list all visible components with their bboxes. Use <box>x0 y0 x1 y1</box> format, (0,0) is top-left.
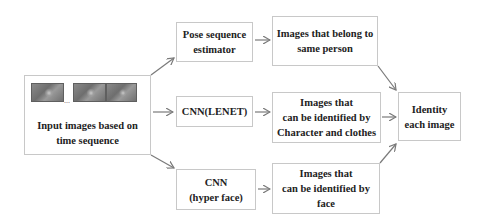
identity-line-1: Identity <box>412 102 448 117</box>
cnn-lenet-box: CNN(LENET) <box>176 96 253 127</box>
flow-diagram: Input images based on time sequence ... … <box>0 0 484 222</box>
by-face-line-2: can be identified by <box>282 181 370 196</box>
pose-label-line-2: estimator <box>193 42 236 57</box>
char-clothes-line-1: Images that <box>300 95 353 110</box>
frame-ellipsis: ... <box>64 97 70 105</box>
frame-thumbnail-1 <box>31 83 64 102</box>
arrow-input-to-pose <box>151 58 174 75</box>
same-person-box: Images that belong to same person <box>272 16 378 66</box>
identity-line-2: each image <box>405 117 455 132</box>
char-clothes-line-2: can be identified by <box>283 110 371 125</box>
identity-box: Identity each image <box>398 92 461 141</box>
cnn-hyperface-box: CNN (hyper face) <box>176 169 256 210</box>
char-clothes-line-3: Character and clothes <box>277 125 376 140</box>
character-clothes-box: Images that can be identified by Charact… <box>272 92 381 143</box>
pose-label-line-1: Pose sequence <box>183 27 246 42</box>
same-person-line-1: Images that belong to <box>277 26 374 41</box>
arrow-by-face-to-identity <box>380 144 396 163</box>
same-person-line-2: same person <box>297 41 353 56</box>
hyperface-label-line-2: (hyper face) <box>189 190 243 205</box>
by-face-line-1: Images that <box>300 166 353 181</box>
by-face-line-3: face <box>317 196 335 211</box>
arrow-same-person-to-identity <box>378 66 396 90</box>
lenet-label: CNN(LENET) <box>182 104 247 119</box>
input-label-line-1: Input images based on <box>37 118 138 133</box>
pose-estimator-box: Pose sequence estimator <box>176 22 253 62</box>
arrow-input-to-hyperface <box>151 155 174 168</box>
by-face-box: Images that can be identified by face <box>272 163 380 214</box>
frame-thumbnail-3 <box>106 83 137 102</box>
hyperface-label-line-1: CNN <box>205 175 228 190</box>
input-label-line-2: time sequence <box>56 133 119 148</box>
frame-thumbnail-2 <box>73 83 106 102</box>
